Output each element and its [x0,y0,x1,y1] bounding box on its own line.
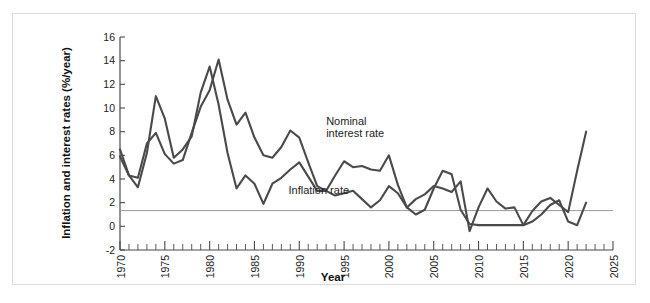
x-tick-label: 1985 [249,255,261,279]
y-tick-label: 4 [109,173,115,185]
y-tick-label: 6 [109,149,115,161]
x-tick-label: 2020 [563,255,575,279]
x-tick-label: 2025 [608,255,620,279]
y-tick-label: 8 [109,125,115,137]
x-tick-label: 2015 [518,255,530,279]
x-tick-label: 1975 [159,255,171,279]
x-tick-label: 2010 [473,255,485,279]
series-line-inflation-rate [120,67,586,231]
figure-container: -20246810121416 197019751980198519901995… [0,0,650,303]
series-label-nominal-line1: Nominal [326,115,366,127]
y-axis-ticks [120,37,125,250]
y-tick-label: 12 [103,78,115,90]
x-tick-label: 1970 [115,255,127,279]
x-axis-title: Year [321,271,346,283]
y-tick-label: -2 [106,244,115,256]
y-tick-label: 2 [109,196,115,208]
x-tick-label: 1990 [294,255,306,279]
y-axis-tick-labels: -20246810121416 [103,31,115,256]
y-tick-label: 0 [109,220,115,232]
y-tick-label: 14 [103,54,115,66]
x-axis-tick-labels: 1970197519801985199019952000200520102015… [115,255,620,279]
chart-canvas: -20246810121416 197019751980198519901995… [0,0,650,303]
x-tick-label: 1980 [204,255,216,279]
y-tick-label: 10 [103,102,115,114]
series-line-nominal-interest-rate [120,59,586,225]
x-axis-major-ticks [120,241,613,250]
y-tick-label: 16 [103,31,115,43]
series-label-nominal-line2: interest rate [326,127,384,139]
data-series-lines [120,59,586,231]
x-tick-label: 2005 [428,255,440,279]
x-tick-label: 2000 [383,255,395,279]
series-label-inflation: Inflation rate [289,184,350,196]
y-axis-title: Inflation and interest rates (%/year) [60,47,72,239]
x-axis-minor-ticks [129,244,604,250]
